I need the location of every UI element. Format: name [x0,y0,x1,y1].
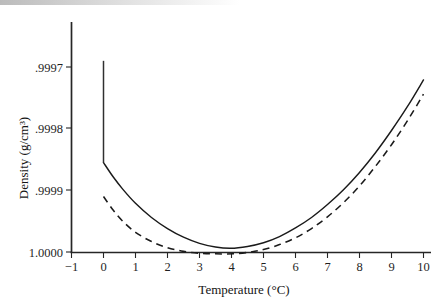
x-tick-label-1: 0 [100,260,106,274]
dashed-curve [104,94,424,254]
x-tick-label-3: 2 [164,260,170,274]
x-axis-title: Temperature (°C) [198,282,289,297]
plot-canvas: .9997 .9998 .9999 1.0000 −1 0 1 2 3 [0,0,437,304]
x-tick-label-5: 4 [228,260,235,274]
x-tick-label-0: −1 [65,260,78,274]
y-tick-label-0: .9997 [35,61,63,75]
x-tick-label-9: 8 [356,260,362,274]
x-tick-label-7: 6 [292,260,298,274]
x-tick-label-2: 1 [132,260,138,274]
x-tick-label-4: 3 [196,260,202,274]
x-tick-labels: −1 0 1 2 3 4 5 6 7 8 9 10 [65,260,430,274]
x-tick-label-10: 9 [388,260,394,274]
data-curves [104,61,424,254]
x-tick-label-11: 10 [417,260,430,274]
y-axis-title: Density (g/cm³) [16,117,31,199]
x-tick-label-6: 5 [260,260,266,274]
density-vs-temperature-figure: .9997 .9998 .9999 1.0000 −1 0 1 2 3 [0,0,437,304]
y-tick-labels: .9997 .9998 .9999 1.0000 [29,61,63,261]
solid-curve [104,80,424,248]
y-tick-label-1: .9998 [35,122,63,136]
y-tick-label-3: 1.0000 [29,246,63,260]
x-tick-label-8: 7 [324,260,330,274]
y-tick-label-2: .9999 [35,184,63,198]
